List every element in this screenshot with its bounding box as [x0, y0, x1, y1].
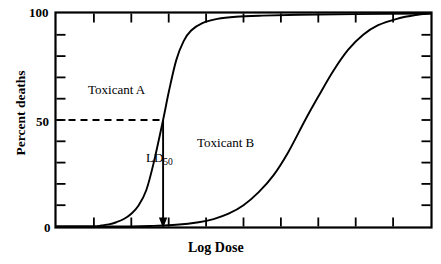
ld50-subscript: 50 [163, 157, 173, 167]
curve-label-toxicant-b: Toxicant B [197, 135, 254, 151]
plot-frame [56, 13, 432, 228]
y-tick-label-50: 50 [36, 115, 49, 128]
y-tick-label-0: 0 [44, 221, 51, 234]
chart-figure: 100 50 0 Percent deaths Log Dose Toxican… [0, 0, 441, 264]
ld50-text: LD [146, 150, 163, 165]
plot-area [0, 0, 441, 264]
curve-label-toxicant-a: Toxicant A [88, 82, 145, 98]
x-axis-label: Log Dose [188, 240, 244, 256]
axes-frame [56, 13, 432, 228]
y-axis-label: Percent deaths [13, 48, 29, 178]
ld50-annotation-label: LD50 [146, 150, 173, 166]
y-tick-label-100: 100 [29, 6, 49, 19]
